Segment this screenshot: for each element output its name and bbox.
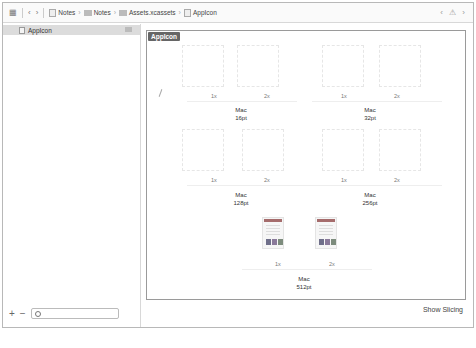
filter-icon: [35, 311, 41, 317]
badge-icon: [125, 27, 132, 32]
thumbnail-header: [317, 219, 335, 222]
remove-button[interactable]: −: [20, 308, 26, 319]
thumbnail-header: [264, 219, 282, 222]
group-name: Mac: [350, 191, 390, 199]
project-file-icon: [49, 9, 56, 17]
icon-slot-32-1x[interactable]: [322, 45, 364, 87]
breadcrumb-group[interactable]: Notes ›: [84, 9, 116, 16]
icon-slot-128-2x[interactable]: [242, 129, 284, 171]
icon-slot-16-2x[interactable]: [237, 45, 279, 87]
thumbnail-swatch: [319, 239, 324, 245]
folder-icon: [119, 10, 127, 16]
group-size: 16pt: [221, 114, 261, 122]
scale-label: 2x: [264, 93, 270, 99]
group-size: 128pt: [221, 199, 261, 207]
folder-icon: [84, 10, 92, 16]
sidebar-footer: + −: [9, 308, 119, 319]
scale-label: 2x: [264, 177, 270, 183]
issue-navigation-controls[interactable]: ‹ ⚠ ›: [440, 8, 467, 17]
show-slicing-button[interactable]: Show Slicing: [423, 306, 463, 313]
scale-label: 1x: [275, 261, 281, 267]
thumbnail-text: [266, 225, 280, 237]
divider: [312, 185, 442, 186]
thumbnail-swatch: [325, 239, 330, 245]
scale-label: 1x: [341, 93, 347, 99]
filter-input[interactable]: [31, 308, 119, 319]
appicon-file-icon: [19, 27, 25, 34]
chevron-right-icon: ›: [179, 9, 181, 16]
icon-slot-512-1x[interactable]: [262, 217, 284, 249]
group-size: 256pt: [350, 199, 390, 207]
breadcrumb-label: AppIcon: [193, 9, 217, 16]
icon-slot-256-2x[interactable]: [379, 129, 421, 171]
divider: [187, 101, 297, 102]
thumbnail-swatch: [331, 239, 336, 245]
group-name: Mac: [221, 106, 261, 114]
divider: [22, 8, 23, 18]
scale-label: 2x: [394, 93, 400, 99]
set-name-label: AppIcon: [148, 32, 180, 41]
chevron-left-icon[interactable]: ‹: [28, 8, 31, 17]
divider: [242, 269, 372, 270]
appicon-set-editor: AppIcon 1x 2x Mac 16pt 1x 2x Mac 32pt 1x…: [146, 30, 466, 300]
scale-label: 2x: [329, 261, 335, 267]
jump-bar: ▦ ‹ › Notes › Notes › Assets.xcassets › …: [3, 3, 473, 23]
group-name: Mac: [350, 106, 390, 114]
thumbnail-swatch: [272, 239, 277, 245]
group-name: Mac: [221, 191, 261, 199]
chevron-right-icon: ›: [78, 9, 80, 16]
icon-slot-512-2x[interactable]: [315, 217, 337, 249]
thumbnail-text: [319, 225, 333, 237]
scale-label: 1x: [341, 177, 347, 183]
sidebar-item-label: AppIcon: [28, 27, 52, 34]
divider: [187, 185, 317, 186]
breadcrumb-project[interactable]: Notes ›: [49, 9, 80, 17]
add-button[interactable]: +: [9, 308, 15, 319]
breadcrumb-label: Notes: [58, 9, 75, 16]
divider: [312, 101, 442, 102]
scale-label: 2x: [394, 177, 400, 183]
chevron-right-icon: ›: [114, 9, 116, 16]
asset-list-sidebar: AppIcon + −: [3, 24, 141, 327]
icon-slot-16-1x[interactable]: [182, 45, 224, 87]
xcode-asset-catalog-window: ▦ ‹ › Notes › Notes › Assets.xcassets › …: [2, 2, 474, 328]
scale-label: 1x: [211, 93, 217, 99]
thumbnail-swatch: [266, 239, 271, 245]
icon-slot-128-1x[interactable]: [182, 129, 224, 171]
breadcrumb-label: Assets.xcassets: [129, 9, 176, 16]
sidebar-item-appicon[interactable]: AppIcon: [3, 25, 140, 35]
scale-label: 1x: [211, 177, 217, 183]
chevron-right-icon[interactable]: ›: [36, 8, 39, 17]
breadcrumb-assets[interactable]: Assets.xcassets ›: [119, 9, 181, 16]
divider: [43, 8, 44, 18]
group-size: 512pt: [284, 283, 324, 291]
group-size: 32pt: [350, 114, 390, 122]
icon-slot-256-1x[interactable]: [322, 129, 364, 171]
icon-slot-32-2x[interactable]: [379, 45, 421, 87]
appicon-file-icon: [184, 9, 191, 17]
thumbnail-swatch: [278, 239, 283, 245]
breadcrumb-label: Notes: [94, 9, 111, 16]
breadcrumb-appicon[interactable]: AppIcon: [184, 9, 217, 17]
grid-icon[interactable]: ▦: [9, 8, 17, 17]
group-name: Mac: [284, 275, 324, 283]
